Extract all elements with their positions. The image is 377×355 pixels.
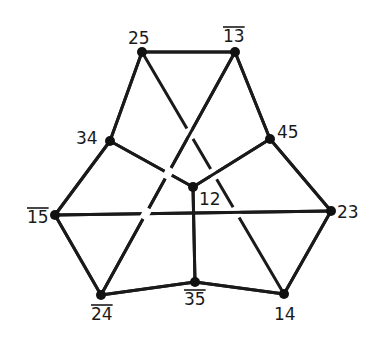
- edge-25-34-over: [110, 52, 142, 141]
- nodes-layer: [50, 47, 336, 300]
- node-23: [326, 206, 336, 216]
- node-label-25: 25: [128, 28, 150, 48]
- node-34: [105, 136, 115, 146]
- node-35: [190, 277, 200, 287]
- edge-45-23-over: [270, 139, 331, 211]
- node-45: [265, 134, 275, 144]
- node-13: [230, 47, 240, 57]
- edges-layer: [55, 52, 331, 295]
- edge-34-15-over: [55, 141, 110, 215]
- node-15: [50, 210, 60, 220]
- graph-diagram: 25133445121523243514: [0, 0, 377, 355]
- node-25: [137, 47, 147, 57]
- node-24: [96, 290, 106, 300]
- node-label-45: 45: [277, 122, 299, 142]
- node-label-13: 13: [223, 26, 245, 46]
- crossing-gap: [165, 168, 171, 179]
- node-label-14: 14: [274, 304, 296, 324]
- edge-45-12-over: [193, 139, 270, 187]
- crossing-gap: [143, 208, 149, 219]
- node-14: [279, 289, 289, 299]
- node-label-35: 35: [184, 289, 206, 309]
- edge-12-35-over: [193, 187, 195, 282]
- edge-24-35-over: [101, 282, 195, 295]
- edge-23-14-over: [284, 211, 331, 294]
- node-label-23: 23: [337, 202, 359, 222]
- node-label-15: 15: [27, 207, 49, 227]
- node-12: [188, 182, 198, 192]
- crossing-gaps-layer: [55, 52, 331, 295]
- edge-13-45-over: [235, 52, 270, 139]
- node-label-34: 34: [76, 128, 98, 148]
- node-label-24: 24: [91, 304, 113, 324]
- node-label-12: 12: [199, 189, 221, 209]
- edge-15-24-over: [55, 215, 101, 295]
- edge-35-14-over: [195, 282, 284, 294]
